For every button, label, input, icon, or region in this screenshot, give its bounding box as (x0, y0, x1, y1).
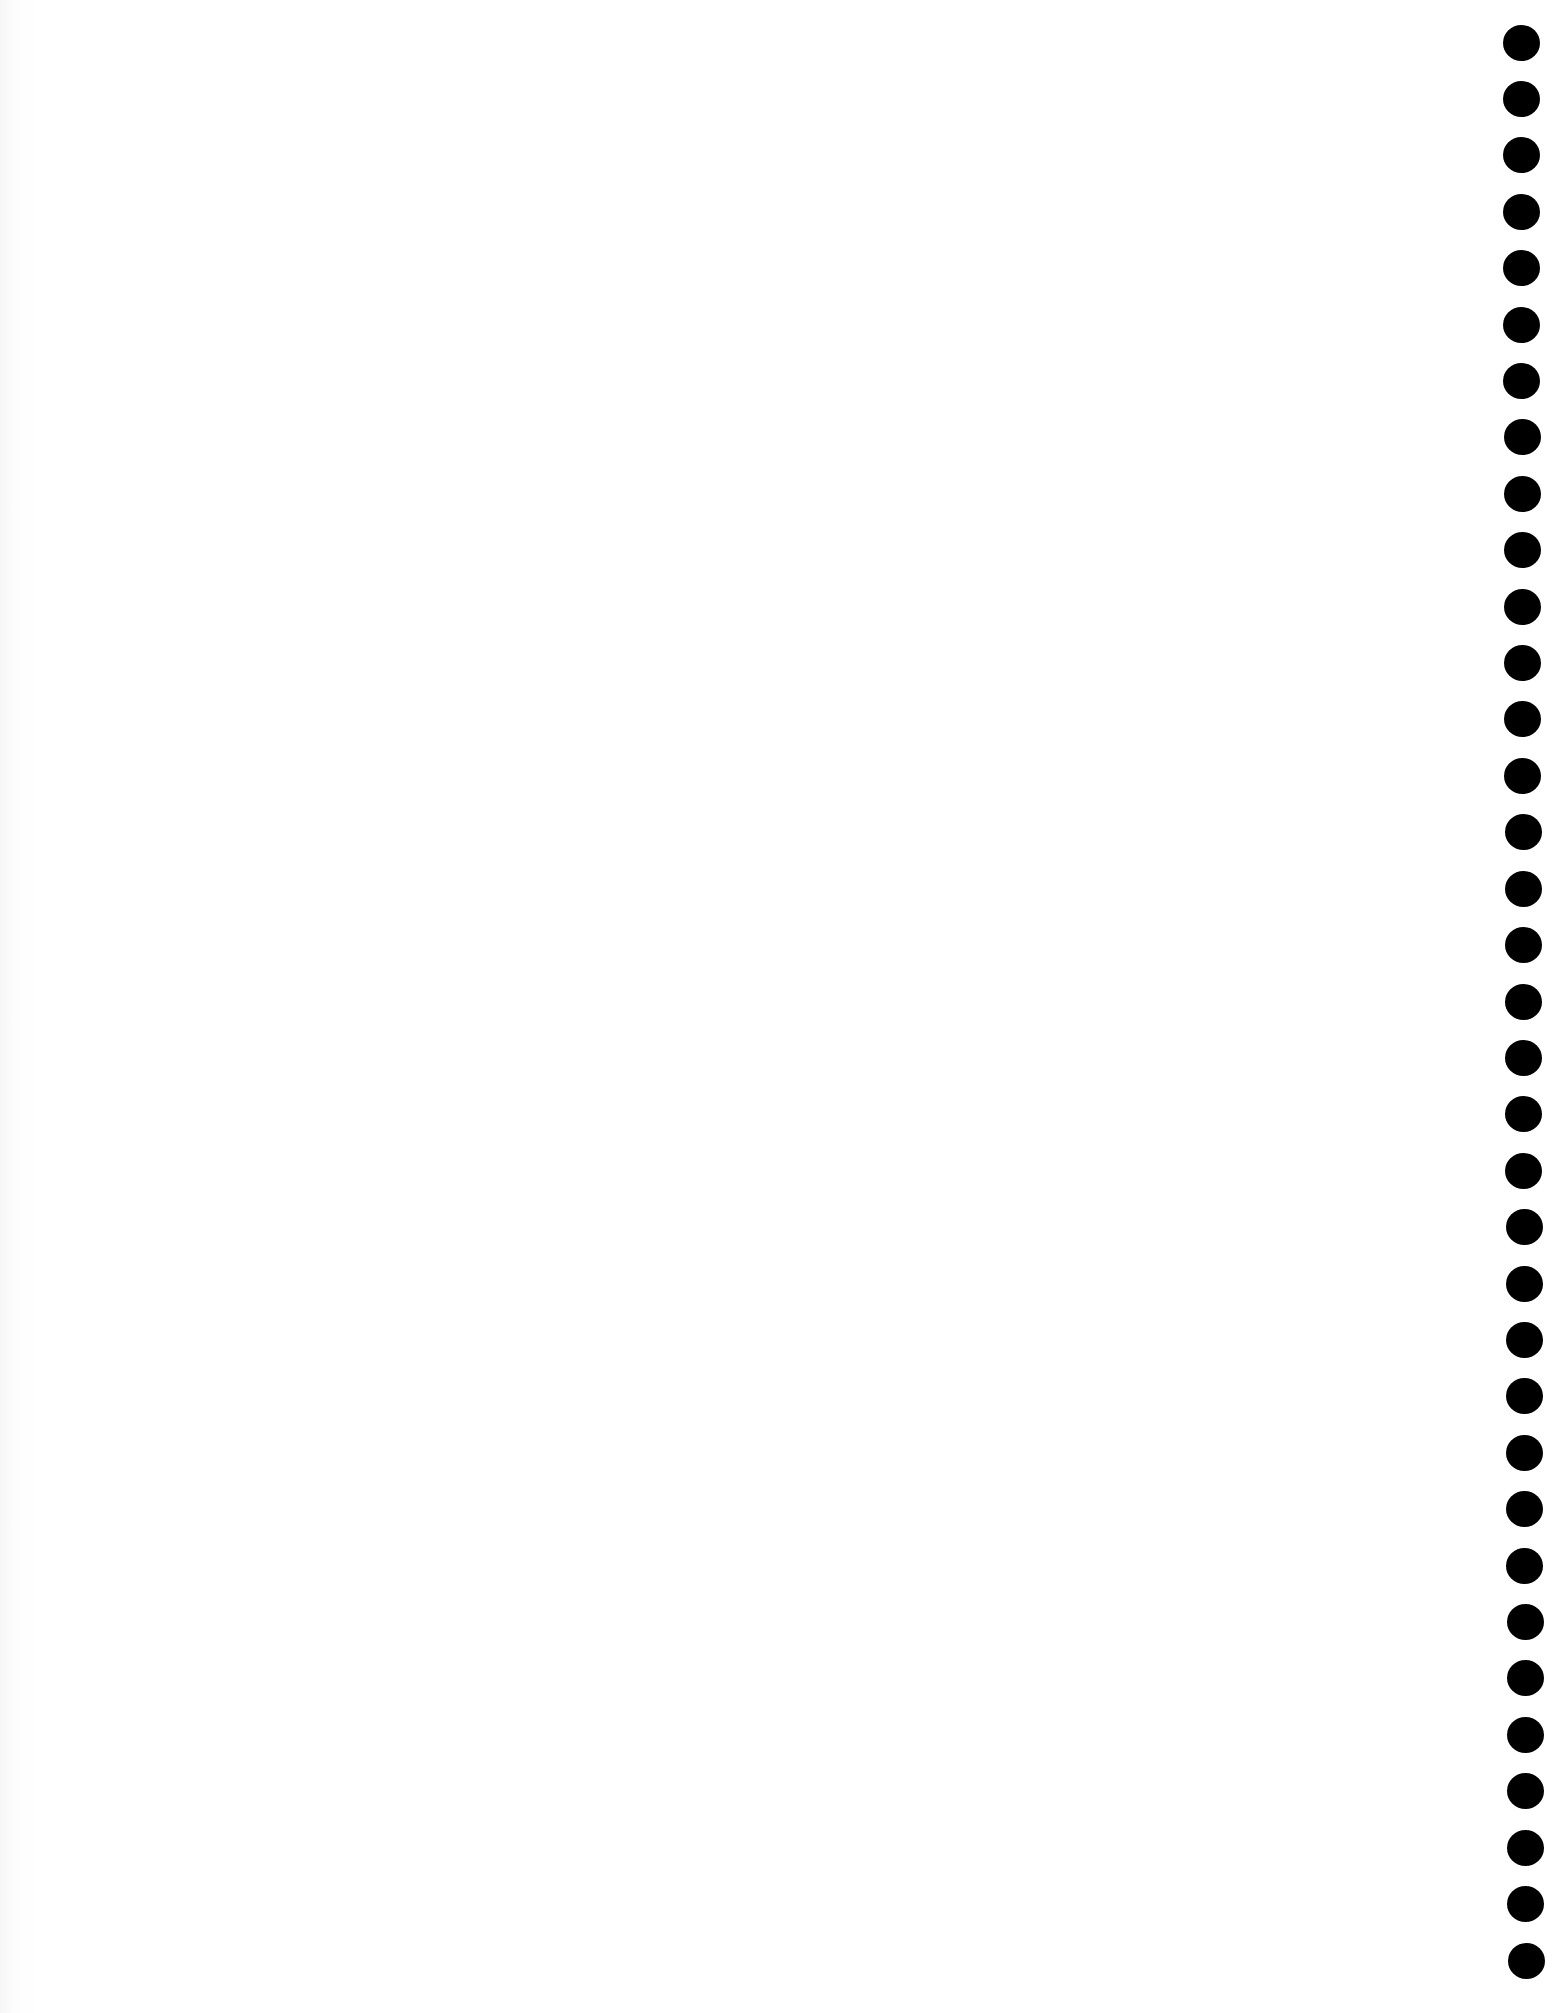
punch-hole (1503, 307, 1540, 343)
punch-hole (1504, 645, 1541, 681)
punch-hole (1508, 1943, 1545, 1979)
punch-hole (1503, 137, 1540, 173)
punch-hole (1503, 25, 1540, 61)
punch-hole (1504, 476, 1541, 512)
punch-hole (1505, 984, 1542, 1020)
punch-hole (1506, 1322, 1543, 1358)
punch-hole (1505, 871, 1542, 907)
punch-hole (1503, 194, 1540, 230)
punch-hole (1504, 758, 1541, 794)
punch-hole (1507, 1604, 1544, 1640)
punch-hole (1507, 1717, 1544, 1753)
punch-hole (1503, 81, 1540, 117)
punch-hole (1506, 1548, 1543, 1584)
punch-hole (1506, 1266, 1543, 1302)
punch-hole (1506, 1209, 1543, 1245)
punch-hole (1507, 1773, 1544, 1809)
punch-hole (1503, 363, 1540, 399)
punch-hole (1507, 1830, 1544, 1866)
punch-hole (1504, 419, 1541, 455)
punch-hole (1507, 1886, 1544, 1922)
punch-hole (1504, 589, 1541, 625)
punch-hole (1507, 1660, 1544, 1696)
blank-document-page (0, 0, 1562, 2013)
punch-hole (1506, 1378, 1543, 1414)
punch-hole (1504, 701, 1541, 737)
punch-hole (1503, 250, 1540, 286)
punch-hole-strip (0, 0, 1562, 2013)
punch-hole (1506, 1435, 1543, 1471)
punch-hole (1505, 1040, 1542, 1076)
punch-hole (1505, 814, 1542, 850)
punch-hole (1504, 532, 1541, 568)
punch-hole (1505, 1096, 1542, 1132)
punch-hole (1505, 927, 1542, 963)
punch-hole (1505, 1153, 1542, 1189)
punch-hole (1506, 1491, 1543, 1527)
